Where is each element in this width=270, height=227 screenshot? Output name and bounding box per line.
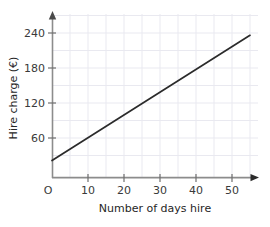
y-axis-title: Hire charge (€) (7, 57, 20, 140)
y-tick-label-60: 60 (31, 132, 45, 145)
y-tick-label-180: 180 (24, 62, 45, 75)
y-tick-label-120: 120 (24, 97, 45, 110)
x-tick-label-10: 10 (81, 184, 95, 197)
x-tick-label-30: 30 (153, 184, 167, 197)
origin-label: O (44, 184, 53, 197)
x-tick-label-20: 20 (117, 184, 131, 197)
x-tick-label-50: 50 (225, 184, 239, 197)
vertical-gridlines (70, 14, 250, 178)
y-tick-label-240: 240 (24, 27, 45, 40)
data-line-hire-charge (52, 35, 250, 160)
chart-container: 240 180 120 60 O 10 20 30 40 50 Number o… (0, 0, 270, 227)
y-axis (49, 11, 56, 178)
horizontal-gridlines (52, 16, 258, 156)
x-axis-title: Number of days hire (99, 202, 212, 215)
x-tick-label-40: 40 (189, 184, 203, 197)
line-chart: 240 180 120 60 O 10 20 30 40 50 Number o… (0, 0, 270, 227)
x-axis (52, 174, 259, 181)
